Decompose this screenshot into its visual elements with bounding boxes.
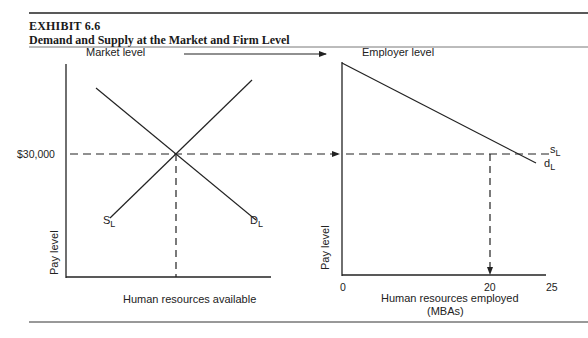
- employer-demand-curve: [342, 63, 536, 163]
- chart-graphics: [0, 0, 588, 338]
- market-supply-curve: [110, 80, 252, 218]
- exhibit-figure: EXHIBIT 6.6 Demand and Supply at the Mar…: [0, 0, 588, 338]
